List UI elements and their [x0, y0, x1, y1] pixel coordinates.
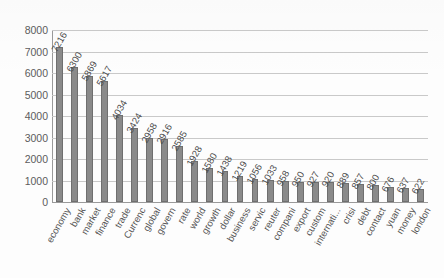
x-axis-category-label: economy [44, 206, 72, 244]
y-axis-tick-label: 3000 [4, 132, 48, 143]
bar-chart: 800070006000500040003000200010000 721663… [0, 0, 444, 278]
bar [116, 115, 123, 202]
plot-area: 7216630058695617403434242958291625851928… [52, 30, 428, 202]
y-axis-tick-label: 5000 [4, 89, 48, 100]
y-axis-tick-label: 8000 [4, 25, 48, 36]
y-axis-tick-label: 1000 [4, 175, 48, 186]
y-axis-tick-label: 2000 [4, 154, 48, 165]
bar [131, 128, 138, 202]
y-axis-tick-label: 7000 [4, 46, 48, 57]
y-axis-tick-label: 4000 [4, 111, 48, 122]
bar [146, 138, 153, 202]
bar [101, 81, 108, 202]
y-axis-tick-label: 0 [4, 197, 48, 208]
bar [161, 139, 168, 202]
x-axis-category-labels: economybankmarketfinancetradeCurrencglob… [52, 206, 428, 278]
bar [71, 67, 78, 202]
bar [86, 76, 93, 202]
bar [56, 47, 63, 202]
axis-baseline [52, 202, 428, 203]
bar [176, 146, 183, 202]
y-axis-labels: 800070006000500040003000200010000 [0, 0, 48, 278]
y-axis-tick-label: 6000 [4, 68, 48, 79]
